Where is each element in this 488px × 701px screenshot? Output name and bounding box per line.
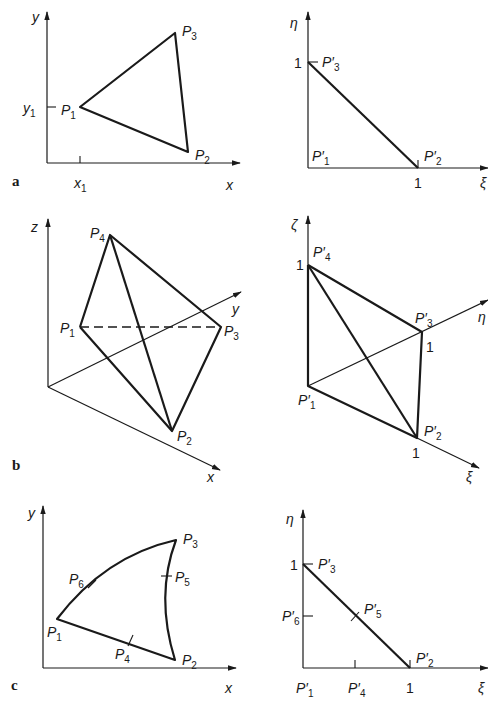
point-p2prime-label: P′2 <box>416 650 434 669</box>
panel-a-reference-triangle: η ξ 1 1 P′1 P′2 P′3 <box>290 12 488 191</box>
y-axis-label: y <box>231 301 240 317</box>
eta-one-label: 1 <box>426 339 434 355</box>
point-p1-label: P1 <box>47 624 62 643</box>
point-p1-label: P1 <box>60 320 75 339</box>
panel-label-c: c <box>11 677 18 693</box>
point-p1-label: P1 <box>61 102 76 121</box>
hypotenuse-edge <box>303 564 410 668</box>
point-p1prime-label: P′1 <box>296 680 314 699</box>
eta-one-label: 1 <box>290 557 298 573</box>
point-p2prime-label: P′2 <box>424 148 442 167</box>
point-p2prime-label: P′2 <box>424 423 442 442</box>
x-axis-label: x <box>225 177 234 193</box>
panel-b-physical-tetrahedron: z y x P1 P2 P3 P4 b <box>12 219 241 485</box>
y1-tick-label: y1 <box>22 100 36 119</box>
point-p4-label: P4 <box>115 646 130 665</box>
eta-axis-label: η <box>290 15 298 31</box>
eta-axis-label: η <box>478 309 486 325</box>
hypotenuse-edge <box>308 62 418 168</box>
point-p1prime-label: P′1 <box>298 392 316 411</box>
curved-triangle-element <box>57 540 176 660</box>
point-p3-label: P3 <box>224 323 239 342</box>
x-axis-label: x <box>206 469 215 485</box>
y-axis-label: y <box>31 9 40 25</box>
panel-c-reference-triangle: η ξ 1 1 P′1 P′2 P′3 P′4 P′5 P′6 <box>282 510 488 699</box>
panel-a-physical-triangle: y x x1 y1 P1 P2 P3 a <box>12 9 240 194</box>
point-p5prime-label: P′5 <box>364 601 382 620</box>
eta-axis <box>308 300 488 386</box>
triangle-element <box>80 33 188 152</box>
panel-b-reference-tetrahedron: ζ η ξ 1 1 1 P′1 P′2 P′3 P′4 <box>291 216 488 485</box>
point-p4-label: P4 <box>90 225 105 244</box>
xi-axis-label: ξ <box>480 175 487 191</box>
point-p3prime-label: P′3 <box>322 54 340 73</box>
point-p1prime-label: P′1 <box>312 148 330 167</box>
point-p5-label: P5 <box>175 569 190 588</box>
point-p3prime-label: P′3 <box>318 556 336 575</box>
xi-axis-label: ξ <box>466 469 473 485</box>
zeta-one-label: 1 <box>296 257 304 273</box>
x-axis <box>48 387 220 470</box>
panel-c: y x P1 P2 P3 P4 P5 P6 c η ξ 1 1 <box>11 505 488 699</box>
point-p6prime-label: P′6 <box>282 608 300 627</box>
y-axis <box>48 292 241 387</box>
panel-label-a: a <box>12 173 20 189</box>
point-p4prime-label: P′4 <box>348 680 366 699</box>
xi-one-label: 1 <box>406 680 414 696</box>
x1-tick-label: x1 <box>73 175 87 194</box>
isoparametric-mapping-figure: y x x1 y1 P1 P2 P3 a η ξ 1 1 P′1 P′2 <box>0 0 488 701</box>
eta-one-label: 1 <box>294 55 302 71</box>
z-axis-label: z <box>30 219 38 235</box>
panel-a: y x x1 y1 P1 P2 P3 a η ξ 1 1 P′1 P′2 <box>12 9 488 194</box>
xi-axis-label: ξ <box>478 680 485 696</box>
point-p3-label: P3 <box>182 23 197 42</box>
point-p4prime-label: P′4 <box>313 244 331 263</box>
panel-c-physical-curved-triangle: y x P1 P2 P3 P4 P5 P6 c <box>11 505 236 696</box>
point-p3-label: P3 <box>183 531 198 550</box>
zeta-axis-label: ζ <box>291 217 299 233</box>
edge-p4-p2 <box>110 235 172 431</box>
xi-one-label: 1 <box>414 175 422 191</box>
x-axis-label: x <box>224 680 233 696</box>
xi-one-label: 1 <box>412 445 420 461</box>
panel-label-b: b <box>12 457 20 473</box>
panel-b: z y x P1 P2 P3 P4 b ζ η ξ 1 1 1 P′1 <box>12 216 488 485</box>
point-p3prime-label: P′3 <box>415 310 433 329</box>
point-p6-label: P6 <box>69 571 84 590</box>
xi-axis <box>417 438 479 468</box>
point-p2-label: P2 <box>177 428 192 447</box>
y-axis-label: y <box>27 505 36 521</box>
tetrahedron-outline <box>80 235 221 431</box>
eta-axis-label: η <box>286 511 294 527</box>
